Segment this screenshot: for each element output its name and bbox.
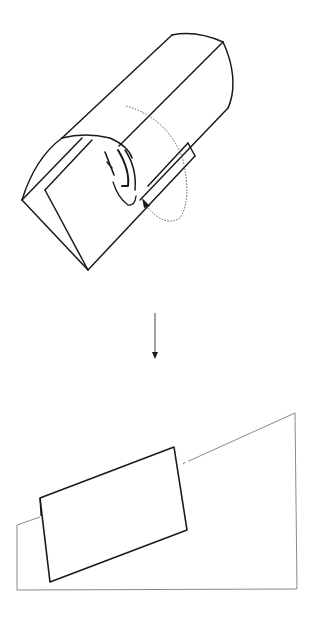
down-arrow-icon: [152, 313, 158, 359]
result-trapezoid: [17, 413, 297, 590]
folded-shape-3d: [22, 34, 233, 270]
rotation-arrowhead-icon: [142, 198, 150, 208]
rotation-arrow-dotted: [126, 106, 187, 221]
result-rectangle: [40, 447, 187, 582]
folding-diagram: [0, 0, 313, 619]
